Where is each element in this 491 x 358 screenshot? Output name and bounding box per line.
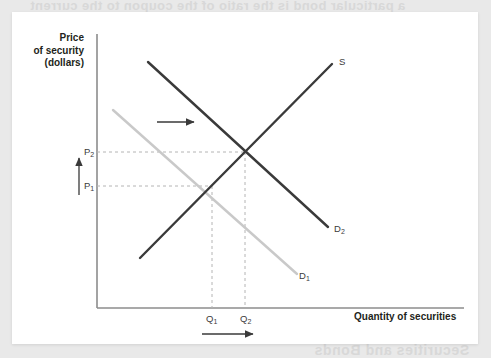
curve-label-d2-sub: 2 <box>341 228 345 235</box>
x-tick-q1-sub: 1 <box>213 318 217 325</box>
y-axis-title-line-3: (dollars) <box>20 57 84 70</box>
y-tick-label-p2: P2 <box>84 146 94 157</box>
x-axis-title: Quantity of securities <box>354 311 456 324</box>
chart-axes <box>97 34 464 308</box>
demand-curve-d2 <box>148 62 328 227</box>
x-tick-label-q2: Q2 <box>240 313 251 324</box>
figure-root: a particular bond is the ratio of the co… <box>0 0 491 358</box>
curve-label-d1-text: D <box>299 270 306 281</box>
chart-panel: Price of security (dollars) Quantity of … <box>12 12 478 344</box>
y-tick-p2-sub: 2 <box>90 151 94 158</box>
y-tick-p1-sub: 1 <box>90 185 94 192</box>
curve-label-d1-sub: 1 <box>306 275 310 282</box>
y-axis-title-line-2: of security <box>20 45 84 58</box>
curve-label-s: S <box>339 56 345 67</box>
page-bleed-bottom-text: Securities and Bonds <box>314 342 469 358</box>
curve-label-d2: D2 <box>334 223 345 234</box>
y-axis-title-line-1: Price <box>20 32 84 45</box>
curve-label-d1: D1 <box>299 270 310 281</box>
x-tick-q2-sub: 2 <box>247 318 251 325</box>
x-tick-label-q1: Q1 <box>206 313 217 324</box>
y-axis-title: Price of security (dollars) <box>20 32 84 70</box>
y-tick-label-p1: P1 <box>84 180 94 191</box>
curve-label-d2-text: D <box>334 223 341 234</box>
